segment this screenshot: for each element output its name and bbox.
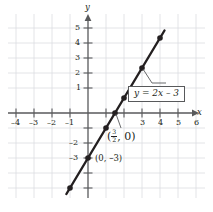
y-tick-label--2: –2 <box>69 139 78 147</box>
point-2-1 <box>121 95 127 101</box>
y-tick-label-2: 2 <box>75 69 80 77</box>
y-axis-label: y <box>85 3 90 12</box>
x-tick-label--2: –2 <box>47 119 56 127</box>
x-intercept-rest: , 0) <box>117 130 135 143</box>
graph-figure: x y –4 –3 –2 –1 3 4 5 6 5 4 3 2 1 –2 –3 … <box>0 0 213 212</box>
point--1--5 <box>67 185 73 191</box>
point-1.5-0 <box>112 110 118 116</box>
point-0--3 <box>85 155 91 161</box>
x-tick-label-3: 3 <box>140 119 145 127</box>
x-intercept-leader <box>116 114 121 128</box>
fraction-denominator: 2 <box>111 136 117 144</box>
y-tick-label--3: –3 <box>69 154 78 162</box>
x-tick-label-6: 6 <box>194 119 199 127</box>
coordinate-plane <box>0 0 213 212</box>
equation-leader <box>143 69 166 83</box>
y-tick-label-1: 1 <box>76 84 81 92</box>
y-tick-label-4: 4 <box>75 39 80 47</box>
x-tick-label--3: –3 <box>29 119 38 127</box>
grid-vertical <box>16 14 196 198</box>
x-tick-label--4: –4 <box>11 119 20 127</box>
equation-label-box: y = 2x – 3 <box>128 86 185 102</box>
y-axis-arrow <box>85 14 92 21</box>
point-4-5 <box>157 35 163 41</box>
y-tick-label-3: 3 <box>75 54 80 62</box>
grid-horizontal <box>8 28 205 188</box>
x-tick-label-4: 4 <box>158 119 163 127</box>
x-intercept-fraction: 32 <box>111 129 117 143</box>
y-tick-label-5: 5 <box>75 24 80 32</box>
y-intercept-annotation: (0, –3) <box>95 154 122 163</box>
x-tick-label-5: 5 <box>176 119 181 127</box>
x-tick-label--1: –1 <box>65 119 74 127</box>
x-axis-label: x <box>197 108 202 117</box>
x-intercept-annotation: (32, 0) <box>107 129 136 143</box>
